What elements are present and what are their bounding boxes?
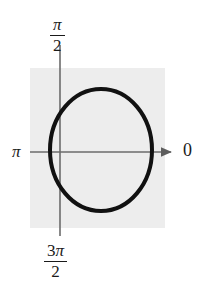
fraction-denominator: 2 (50, 36, 65, 55)
fraction-numerator: 3π (44, 242, 67, 261)
axis-label-zero: 0 (183, 141, 192, 159)
fraction-three-pi-over-two: 3π 2 (44, 242, 67, 281)
fraction-numerator-symbol: π (56, 241, 65, 260)
axis-label-three-pi-over-two: 3π 2 (44, 242, 67, 281)
axis-label-pi-over-two: π 2 (50, 16, 65, 55)
fraction-numerator: π (50, 16, 65, 35)
axis-label-pi: π (12, 143, 21, 160)
plot-canvas (0, 0, 200, 302)
fraction-coefficient: 3 (47, 241, 56, 260)
polar-plot-figure: π 0 π 2 3π 2 (0, 0, 200, 302)
fraction-denominator: 2 (44, 262, 67, 281)
fraction-pi-over-two: π 2 (50, 16, 65, 55)
